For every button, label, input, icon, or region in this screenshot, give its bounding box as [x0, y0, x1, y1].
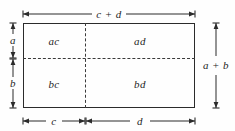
area-model-figure: ac ad bc bd c + d a + b a b c d — [0, 0, 235, 131]
cell-label-bd: bd — [134, 78, 146, 90]
horizontal-dashed-divider — [23, 58, 195, 59]
vertical-dashed-divider — [85, 23, 86, 108]
cell-label-ad: ad — [134, 35, 146, 47]
dimension-label-c: c — [48, 115, 59, 127]
dimension-label-a: a — [7, 34, 19, 46]
dimension-label-right: a + b — [200, 59, 232, 71]
dimension-label-b: b — [7, 77, 19, 89]
cell-label-ac: ac — [48, 35, 59, 47]
cell-label-bc: bc — [48, 78, 59, 90]
dimension-label-d: d — [134, 115, 146, 127]
dimension-label-top: c + d — [93, 8, 124, 20]
